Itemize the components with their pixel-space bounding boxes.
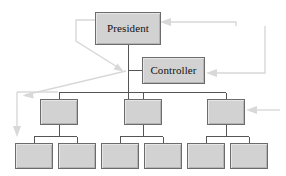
annotation-far-left-down-arrowhead — [13, 126, 21, 137]
node-controller-label: Controller — [150, 65, 196, 76]
node-controller[interactable]: Controller — [142, 57, 205, 84]
annotation-into-president-arrowhead — [160, 18, 171, 26]
annotation-into-controller-arrowhead — [206, 69, 217, 77]
annotation-into-mid3-arrowhead — [246, 106, 257, 114]
node-leaf-5[interactable] — [187, 143, 225, 169]
node-mid-2[interactable] — [124, 99, 162, 125]
annotation-into-controller-line — [216, 26, 265, 73]
node-leaf-1[interactable] — [15, 143, 53, 169]
node-leaf-3[interactable] — [101, 143, 139, 169]
annotation-junction-down-left-arrowhead — [23, 92, 34, 98]
org-chart-diagram: President Controller — [0, 0, 286, 176]
annotation-president-left-loop-arrowhead — [114, 64, 124, 72]
node-mid-3[interactable] — [207, 99, 245, 125]
node-president-label: President — [107, 23, 149, 34]
node-leaf-4[interactable] — [144, 143, 182, 169]
annotation-into-president-line — [170, 22, 236, 26]
node-president[interactable]: President — [95, 12, 161, 45]
node-mid-1[interactable] — [40, 99, 78, 125]
node-leaf-2[interactable] — [58, 143, 96, 169]
node-leaf-6[interactable] — [230, 143, 268, 169]
